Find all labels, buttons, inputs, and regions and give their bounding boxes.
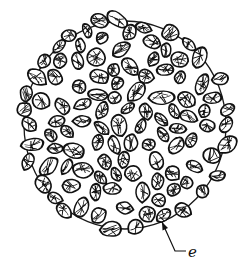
grain <box>107 90 123 104</box>
grain <box>53 53 67 68</box>
grain <box>86 47 106 67</box>
grain <box>193 72 211 96</box>
grain <box>96 153 113 172</box>
grain <box>179 108 200 125</box>
grain <box>20 86 32 101</box>
grain <box>19 114 40 134</box>
grain <box>94 30 110 45</box>
grain <box>185 158 205 175</box>
grain <box>103 182 121 194</box>
grain <box>75 38 86 53</box>
grain <box>109 113 129 138</box>
grain <box>165 181 183 198</box>
grain <box>142 32 163 51</box>
grain <box>89 68 109 85</box>
grain <box>161 43 172 57</box>
grain <box>203 91 223 105</box>
grain <box>70 51 85 70</box>
grain <box>92 119 111 138</box>
grain <box>109 166 123 183</box>
grain <box>72 96 93 113</box>
grain <box>81 22 94 38</box>
grain <box>72 162 94 180</box>
grain-cross-section-diagram <box>0 0 247 268</box>
grain <box>71 195 92 219</box>
grain <box>173 70 186 85</box>
grain <box>166 103 182 121</box>
grain <box>109 38 133 60</box>
grain <box>20 137 44 152</box>
grain <box>180 36 199 53</box>
grain <box>119 101 136 116</box>
grain <box>183 131 199 149</box>
grain <box>147 150 165 171</box>
grain <box>148 91 175 105</box>
grain <box>175 89 198 111</box>
grain <box>169 123 186 134</box>
grain <box>109 75 126 92</box>
label-pointer-arrow <box>162 222 186 251</box>
label-e: e <box>188 243 197 261</box>
grain <box>90 183 101 200</box>
grain <box>62 179 80 192</box>
grain <box>116 201 135 216</box>
grain <box>159 22 181 44</box>
grain <box>150 172 165 190</box>
grain <box>136 182 151 203</box>
grain <box>90 133 105 151</box>
grain <box>72 115 91 127</box>
grain <box>52 96 72 117</box>
grain <box>45 67 64 87</box>
grain <box>134 118 148 135</box>
grain <box>62 30 76 42</box>
grain <box>134 21 153 36</box>
grain <box>42 127 58 143</box>
grain <box>15 100 33 118</box>
grain <box>138 102 154 121</box>
grains-group <box>15 8 240 238</box>
grain <box>93 100 112 121</box>
grain <box>62 141 86 160</box>
grain <box>58 158 74 177</box>
grain <box>199 118 216 133</box>
grain <box>209 170 225 181</box>
grain <box>70 78 88 96</box>
grain <box>99 221 121 237</box>
grain <box>180 176 193 190</box>
grain <box>140 137 156 152</box>
grain <box>30 90 53 112</box>
grain <box>152 111 170 128</box>
grain <box>151 192 167 207</box>
grain <box>217 115 235 135</box>
grain <box>197 103 212 120</box>
grain <box>157 64 174 75</box>
grain <box>194 183 211 200</box>
grain <box>47 143 63 154</box>
grain <box>154 206 173 224</box>
grain <box>219 101 237 118</box>
grain <box>124 134 138 151</box>
